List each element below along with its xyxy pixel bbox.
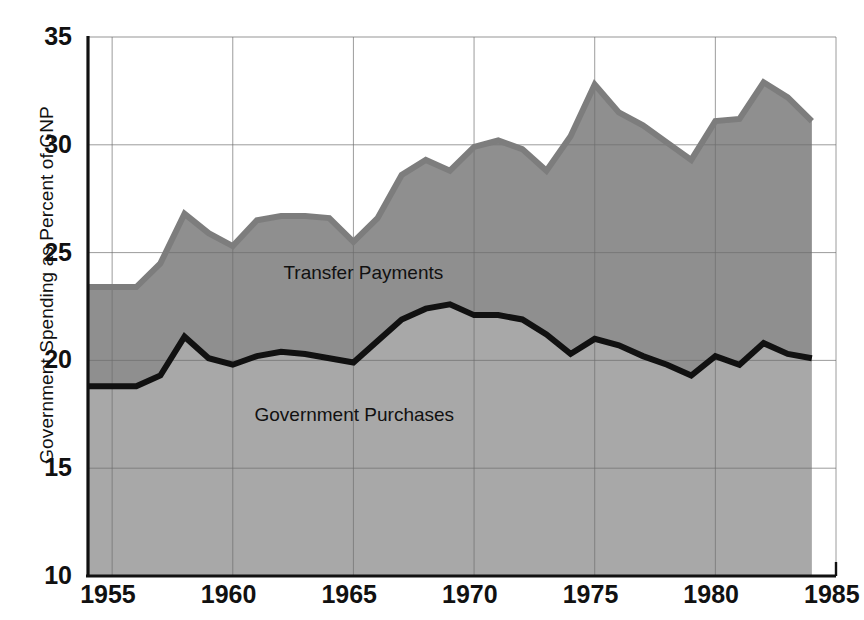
y-tick-label: 25 [44, 240, 72, 265]
y-tick-label: 35 [44, 24, 72, 49]
series-annotation: Transfer Payments [283, 262, 443, 284]
y-tick-label: 10 [44, 563, 72, 588]
y-axis-ticks: 101520253035 [0, 0, 80, 620]
series-annotation: Government Purchases [254, 404, 454, 426]
y-tick-label: 20 [44, 347, 72, 372]
x-tick-label: 1975 [563, 582, 619, 607]
y-tick-label: 15 [44, 455, 72, 480]
x-tick-label: 1965 [321, 582, 377, 607]
x-tick-label: 1980 [683, 582, 739, 607]
x-tick-label: 1970 [442, 582, 498, 607]
x-tick-label: 1985 [804, 582, 860, 607]
chart-figure: Government Spending as Percent of GNP 10… [0, 0, 864, 620]
y-tick-label: 30 [44, 132, 72, 157]
area-chart-plot [0, 0, 864, 620]
x-tick-label: 1955 [80, 582, 136, 607]
x-tick-label: 1960 [201, 582, 257, 607]
